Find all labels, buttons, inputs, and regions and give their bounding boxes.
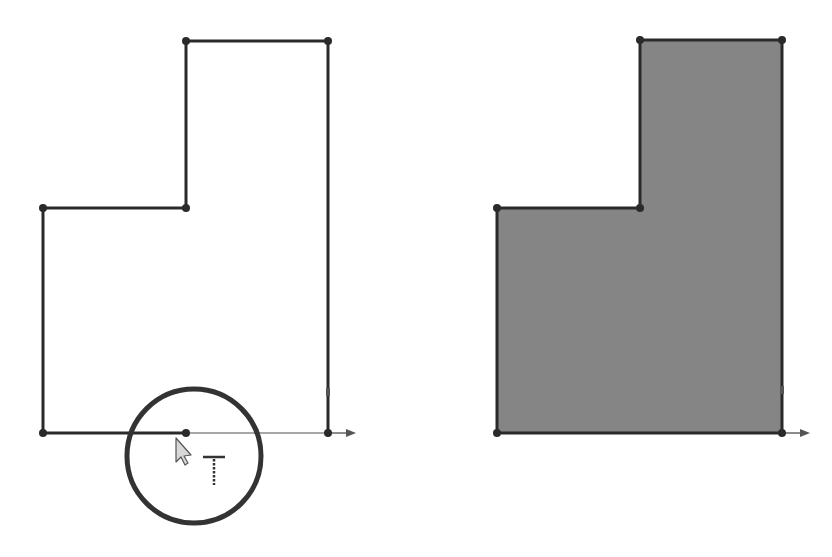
- endpoint-marker[interactable]: [39, 204, 47, 212]
- highlight-circle: [127, 389, 261, 523]
- endpoint-marker[interactable]: [493, 204, 501, 212]
- endpoint-marker[interactable]: [182, 429, 190, 437]
- endpoint-marker[interactable]: [182, 204, 190, 212]
- endpoint-marker[interactable]: [39, 429, 47, 437]
- endpoint-marker[interactable]: [636, 36, 644, 44]
- sketch-canvas[interactable]: [0, 0, 832, 557]
- closed-region-panel: [493, 36, 810, 437]
- arrow-pointer-icon: [176, 438, 191, 465]
- x-axis-arrow-icon: [328, 429, 356, 437]
- endpoint-marker[interactable]: [493, 429, 501, 437]
- endpoint-marker[interactable]: [636, 204, 644, 212]
- endpoint-marker[interactable]: [182, 37, 190, 45]
- endpoint-marker[interactable]: [324, 37, 332, 45]
- x-axis-arrow-icon: [782, 429, 810, 437]
- endpoint-marker[interactable]: [778, 429, 786, 437]
- open-sketch-panel: [39, 37, 356, 437]
- vertical-relation-marker-icon: [326, 388, 330, 396]
- vertical-relation-marker-icon: [780, 386, 784, 394]
- coincident-t-icon: [203, 457, 225, 485]
- endpoint-marker[interactable]: [324, 429, 332, 437]
- sketch-profile-outline[interactable]: [43, 41, 328, 433]
- shaded-sketch-region[interactable]: [497, 40, 782, 433]
- endpoint-marker[interactable]: [778, 36, 786, 44]
